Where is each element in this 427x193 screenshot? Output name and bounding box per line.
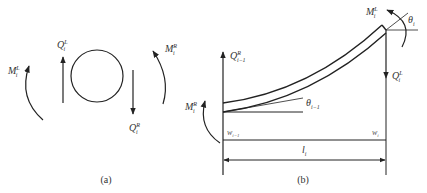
tangent-line-left (223, 98, 303, 112)
label-M-left-b: MRi (184, 101, 197, 114)
moment-right-arc-icon-b (387, 10, 406, 47)
label-w-left: wi−1 (227, 128, 240, 138)
label-M-left-a: MLi (7, 65, 20, 78)
label-theta-left: θi−1 (306, 97, 320, 110)
label-M-right-b: MLi (365, 6, 378, 19)
beam-end-cap (382, 25, 386, 30)
beam-element-diagram: MLi QLi QRi MRi (a) QRi−1 MRi (0, 0, 427, 193)
label-w-right: wi (372, 128, 379, 138)
panel-a: MLi QLi QRi MRi (a) (7, 39, 177, 186)
moment-left-arc-icon (26, 66, 43, 120)
label-Q-left-b: QRi−1 (230, 50, 246, 63)
caption-b: (b) (297, 174, 309, 186)
label-M-right-a: MRi (164, 43, 177, 56)
beam-bottom-edge (223, 33, 386, 112)
moment-left-arc-icon-b (203, 101, 220, 143)
label-Q-right-b: QLi (392, 70, 403, 83)
beam-top-edge (223, 25, 382, 103)
caption-a: (a) (100, 174, 111, 186)
joint-circle (71, 50, 123, 102)
label-theta-right: θi (408, 14, 415, 27)
label-length: li (302, 144, 307, 157)
label-Q-right-a: QRi (129, 122, 140, 135)
panel-b: QRi−1 MRi θi−1 QLi MLi (184, 6, 418, 186)
label-Q-left-a: QLi (57, 39, 68, 52)
moment-right-arc-icon (153, 51, 165, 104)
